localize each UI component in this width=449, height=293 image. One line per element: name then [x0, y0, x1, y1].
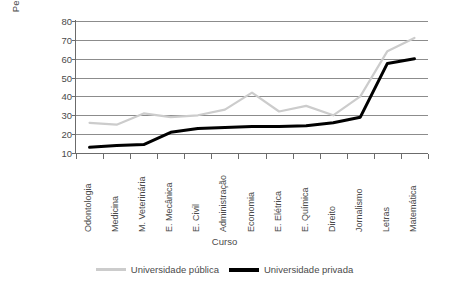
legend-item-public[interactable]: Universidade pública — [96, 264, 219, 275]
x-tick-label: Letras — [382, 207, 391, 232]
x-tick-mark — [103, 154, 104, 159]
y-tick-label: 30 — [50, 110, 72, 121]
y-tick-mark — [72, 96, 76, 97]
x-axis-line — [75, 153, 428, 154]
x-tick-label: E. Mecânica — [165, 182, 174, 232]
y-tick-mark — [72, 134, 76, 135]
x-tick-mark — [428, 154, 429, 159]
y-tick-label: 70 — [50, 34, 72, 45]
legend-swatch-public-icon — [96, 268, 126, 271]
plot-area — [76, 21, 428, 153]
x-tick-mark — [293, 154, 294, 159]
x-tick-label: E. Química — [301, 187, 310, 232]
y-tick-label: 60 — [50, 53, 72, 64]
line-universidade-privada — [90, 59, 415, 148]
x-axis-title: Curso — [0, 236, 449, 247]
x-tick-label: E. Elétrica — [274, 191, 283, 232]
x-tick-mark — [347, 154, 348, 159]
y-axis-title: Percentagem — [10, 0, 21, 38]
x-tick-label: Jornalismo — [355, 188, 364, 232]
x-tick-mark — [374, 154, 375, 159]
chart-container: Percentagem 1020304050607080 Odontologia… — [0, 0, 449, 293]
x-tick-label: Matemática — [409, 185, 418, 232]
x-tick-mark — [401, 154, 402, 159]
x-axis-labels: OdontologiaMedicinaM. VeterináriaE. Mecâ… — [76, 160, 428, 232]
x-tick-mark — [184, 154, 185, 159]
legend-label-private: Universidade privada — [264, 264, 353, 275]
y-tick-mark — [72, 78, 76, 79]
y-tick-mark — [72, 153, 76, 154]
y-tick-label: 10 — [50, 148, 72, 159]
y-tick-label: 40 — [50, 91, 72, 102]
chart-legend: Universidade pública Universidade privad… — [0, 264, 449, 275]
y-tick-label: 20 — [50, 129, 72, 140]
series-lines — [76, 21, 428, 153]
legend-swatch-private-icon — [229, 268, 259, 272]
x-tick-label: Economia — [247, 192, 256, 232]
y-tick-mark — [72, 21, 76, 22]
y-tick-mark — [72, 59, 76, 60]
y-tick-mark — [72, 40, 76, 41]
x-tick-label: Odontologia — [84, 183, 93, 232]
x-tick-mark — [130, 154, 131, 159]
x-tick-mark — [157, 154, 158, 159]
x-tick-mark — [211, 154, 212, 159]
x-tick-mark — [76, 154, 77, 159]
x-tick-label: M. Veterinária — [138, 176, 147, 232]
x-tick-label: E. Civil — [192, 204, 201, 232]
legend-label-public: Universidade pública — [131, 264, 219, 275]
x-tick-mark — [320, 154, 321, 159]
x-tick-label: Direito — [328, 206, 337, 232]
line-universidade-publica — [90, 38, 415, 125]
x-tick-mark — [266, 154, 267, 159]
y-tick-mark — [72, 115, 76, 116]
y-tick-label: 50 — [50, 72, 72, 83]
x-tick-mark — [238, 154, 239, 159]
x-tick-label: Administração — [219, 175, 228, 232]
x-tick-label: Medicina — [111, 196, 120, 232]
y-tick-label: 80 — [50, 16, 72, 27]
legend-item-private[interactable]: Universidade privada — [229, 264, 353, 275]
y-axis-ticks: 1020304050607080 — [50, 21, 72, 153]
